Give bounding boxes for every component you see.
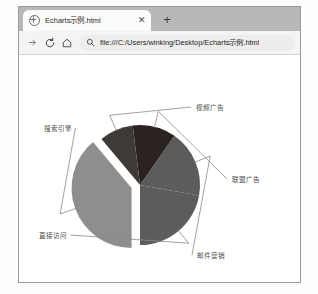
pie-slice-label: 直接访问	[39, 231, 67, 240]
pie-chart-svg: 搜索引擎直接访问邮件营销联盟广告视频广告	[19, 55, 300, 282]
screenshot-root: Echarts示例.html ✕ +	[0, 0, 318, 294]
close-icon[interactable]: ✕	[136, 15, 147, 26]
address-bar-url: file:///C:/Users/winking/Desktop/Echarts…	[100, 35, 259, 51]
pie-slice[interactable]	[140, 185, 199, 245]
browser-tab[interactable]: Echarts示例.html ✕	[23, 10, 151, 31]
tab-strip: Echarts示例.html ✕ +	[19, 7, 300, 31]
new-tab-button[interactable]: +	[157, 10, 177, 30]
reload-icon[interactable]	[41, 34, 58, 51]
browser-window: Echarts示例.html ✕ +	[18, 6, 301, 283]
page-viewport: 搜索引擎直接访问邮件营销联盟广告视频广告	[19, 55, 300, 282]
tab-title: Echarts示例.html	[45, 10, 136, 31]
search-icon	[85, 38, 95, 48]
pie-slice-label: 搜索引擎	[44, 124, 72, 133]
echarts-pie-chart: 搜索引擎直接访问邮件营销联盟广告视频广告	[19, 55, 300, 282]
address-bar[interactable]: file:///C:/Users/winking/Desktop/Echarts…	[79, 35, 295, 51]
browser-toolbar: file:///C:/Users/winking/Desktop/Echarts…	[19, 31, 300, 55]
forward-arrow-icon[interactable]	[24, 34, 41, 51]
pie-slice-label: 视频广告	[196, 103, 224, 112]
globe-icon	[29, 15, 40, 26]
home-icon[interactable]	[58, 34, 75, 51]
pie-slice-label: 联盟广告	[232, 175, 260, 184]
pie-slice-label: 邮件营销	[197, 251, 225, 260]
